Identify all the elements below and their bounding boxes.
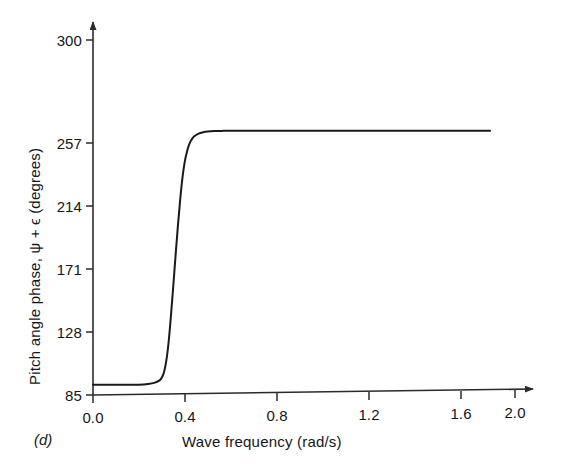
panel-label: (d): [34, 431, 52, 448]
x-tick-label-0-0: 0.0: [82, 409, 103, 426]
data-series-line: [93, 131, 490, 385]
x-tick-label-0-8: 0.8: [266, 407, 287, 424]
x-tick-label-1-2: 1.2: [358, 406, 379, 423]
x-tick-label-0-4: 0.4: [174, 408, 195, 425]
x-axis-title: Wave frequency (rad/s): [182, 433, 342, 450]
y-axis-title: Pitch angle phase, ψ + ϵ (degrees): [26, 25, 52, 385]
figure-panel-d: 300 257 214 171 128 85 0.0 0.4 0.8 1.2 1…: [0, 0, 579, 473]
x-tick-label-2-0: 2.0: [504, 404, 525, 421]
y-axis-ticks: [86, 40, 93, 395]
y-tick-label-85: 85: [42, 387, 82, 404]
chart-canvas: [0, 0, 579, 473]
x-tick-label-1-6: 1.6: [450, 405, 471, 422]
x-axis-line: [93, 389, 533, 395]
